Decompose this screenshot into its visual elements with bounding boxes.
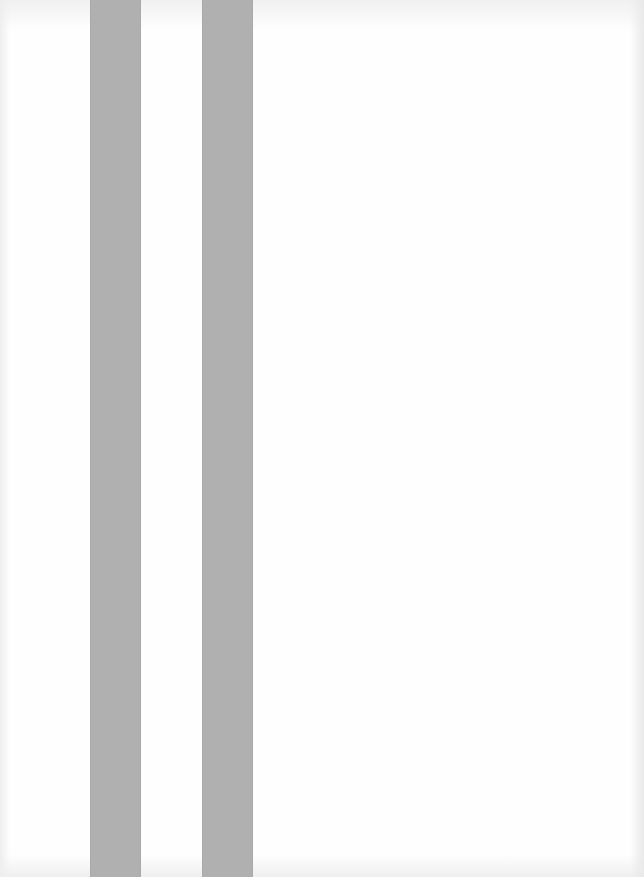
blank-page (0, 0, 644, 877)
scan-shadow-left (0, 0, 10, 877)
scan-shadow-right (630, 0, 644, 877)
vertical-stripe (90, 0, 141, 877)
vertical-stripe (202, 0, 253, 877)
